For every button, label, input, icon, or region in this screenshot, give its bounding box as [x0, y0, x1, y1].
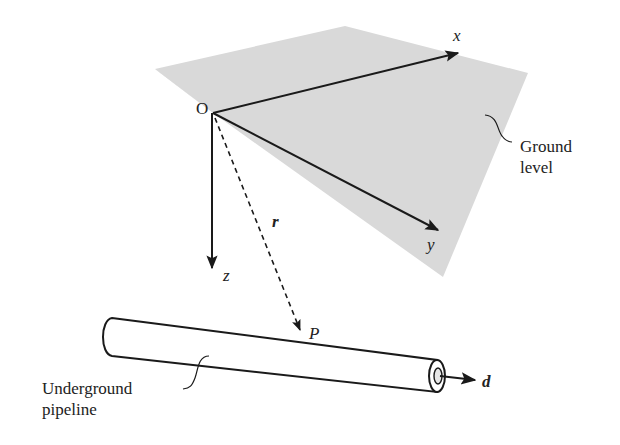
ground-plane — [155, 26, 528, 277]
z-axis-label: z — [223, 267, 230, 284]
ground-level-label: Ground level — [520, 136, 572, 178]
point-p-label: P — [309, 325, 319, 342]
y-axis-label: y — [427, 236, 435, 253]
pipeline-body — [103, 318, 437, 392]
d-vector-label: d — [482, 373, 491, 390]
origin-label: O — [196, 100, 208, 117]
pipeline-label: Underground pipeline — [42, 378, 132, 420]
x-axis-label: x — [453, 27, 461, 44]
r-vector-label: r — [272, 213, 279, 230]
